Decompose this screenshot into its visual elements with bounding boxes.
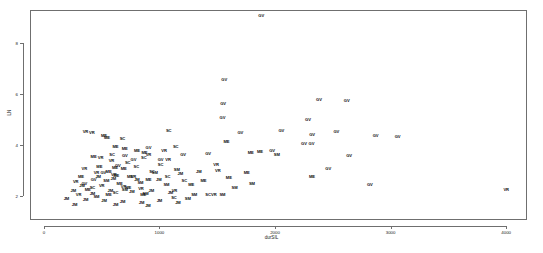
- y-tick: [20, 145, 23, 146]
- data-point-sc: SC: [205, 193, 211, 197]
- x-axis-label: durSIL: [0, 235, 543, 240]
- data-point-vr: VR: [165, 158, 171, 162]
- data-point-jm: JM: [64, 197, 70, 201]
- y-tick-label: 2: [8, 193, 18, 198]
- data-point-me: ME: [112, 166, 118, 170]
- data-point-gv: GV: [305, 118, 311, 122]
- data-point-sm: SM: [185, 197, 191, 201]
- data-point-me: ME: [122, 147, 128, 151]
- data-point-gv: GV: [344, 99, 350, 103]
- data-point-vr: VR: [161, 148, 167, 152]
- data-point-vr: VR: [83, 130, 89, 134]
- data-point-sm: SM: [103, 179, 109, 183]
- x-tick: [44, 226, 45, 229]
- data-point-gv: GV: [325, 167, 331, 171]
- data-point-sc: SC: [173, 145, 179, 149]
- data-point-jm: JM: [90, 192, 96, 196]
- data-point-vr: VR: [98, 156, 104, 160]
- data-point-jm: JM: [120, 200, 126, 204]
- data-point-sm: SM: [122, 188, 128, 192]
- data-point-jm: JM: [83, 198, 89, 202]
- data-point-gv: GV: [220, 102, 226, 106]
- data-point-me: ME: [121, 167, 127, 171]
- data-point-me: ME: [96, 165, 102, 169]
- data-point-gv: GV: [395, 135, 401, 139]
- y-tick: [20, 43, 23, 44]
- y-tick: [20, 94, 23, 95]
- data-point-me: ME: [257, 150, 263, 154]
- data-point-sc: SC: [182, 179, 188, 183]
- data-point-jm: JM: [72, 203, 78, 207]
- data-point-me: ME: [91, 155, 97, 159]
- data-point-jm: JM: [168, 191, 174, 195]
- data-point-gv: GV: [258, 14, 264, 18]
- data-point-vr: VR: [99, 184, 105, 188]
- data-point-gv: GV: [346, 154, 352, 158]
- y-tick-label: 6: [8, 92, 18, 97]
- data-point-gv: GV: [309, 133, 315, 137]
- data-point-gv: GV: [220, 116, 226, 120]
- data-point-me: ME: [248, 151, 254, 155]
- y-axis-line: [23, 43, 24, 196]
- y-axis-label: LN: [7, 98, 12, 128]
- y-tick-label: 4: [8, 142, 18, 147]
- data-point-gv: GV: [221, 78, 227, 82]
- data-point-jm: JM: [110, 177, 116, 181]
- data-point-gv: GV: [131, 158, 137, 162]
- data-point-sc: SC: [141, 156, 147, 160]
- data-point-jm: JM: [71, 189, 77, 193]
- data-point-sc: SC: [134, 165, 140, 169]
- x-tick: [391, 226, 392, 229]
- scatter-plot-figure: GVGVGVGVGVGVGVGVGVGVGVGVGVGVGVGVGVGVGVGV…: [0, 0, 543, 253]
- data-point-sc: SC: [166, 129, 172, 133]
- data-point-jm: JM: [145, 204, 151, 208]
- data-point-jm: JM: [101, 199, 107, 203]
- data-point-me: ME: [188, 183, 194, 187]
- data-point-sc: SC: [90, 186, 96, 190]
- data-point-sc: SC: [109, 153, 115, 157]
- data-point-sc: SC: [165, 175, 171, 179]
- data-point-jm: JM: [139, 201, 145, 205]
- data-point-sm: SM: [163, 183, 169, 187]
- data-point-me: ME: [226, 176, 232, 180]
- data-point-jm: JM: [149, 189, 155, 193]
- data-point-sm: SM: [219, 193, 225, 197]
- data-points-layer: GVGVGVGVGVGVGVGVGVGVGVGVGVGVGVGVGVGVGVGV…: [0, 0, 543, 253]
- data-point-sc: SC: [125, 161, 131, 165]
- data-point-gv: GV: [333, 130, 339, 134]
- data-point-sm: SM: [274, 153, 280, 157]
- data-point-gv: GV: [301, 142, 307, 146]
- data-point-sm: SM: [232, 186, 238, 190]
- data-point-jm: JM: [95, 175, 101, 179]
- data-point-sm: SM: [249, 182, 255, 186]
- data-point-vr: VR: [73, 180, 79, 184]
- y-tick: [20, 196, 23, 197]
- data-point-vr: VR: [503, 188, 509, 192]
- data-point-me: ME: [309, 175, 315, 179]
- x-tick: [159, 226, 160, 229]
- data-point-jm: JM: [196, 170, 202, 174]
- data-point-jm: JM: [175, 201, 181, 205]
- data-point-gv: GV: [122, 154, 128, 158]
- data-point-jm: JM: [129, 190, 135, 194]
- data-point-me: ME: [200, 179, 206, 183]
- data-point-vr: VR: [215, 169, 221, 173]
- data-point-vr: VR: [82, 167, 88, 171]
- data-point-jm: JM: [157, 199, 163, 203]
- data-point-sc: SC: [171, 196, 177, 200]
- data-point-me: ME: [104, 136, 110, 140]
- x-tick: [506, 226, 507, 229]
- data-point-vr: VR: [89, 131, 95, 135]
- data-point-sc: SC: [158, 163, 164, 167]
- data-point-vr: VR: [76, 193, 82, 197]
- y-tick-label: 8: [8, 41, 18, 46]
- data-point-gv: GV: [309, 142, 315, 146]
- data-point-me: ME: [145, 178, 151, 182]
- data-point-jm: JM: [113, 203, 119, 207]
- data-point-vr: VR: [213, 163, 219, 167]
- data-point-vr: VR: [109, 159, 115, 163]
- data-point-me: ME: [134, 148, 140, 152]
- data-point-me: ME: [224, 140, 230, 144]
- data-point-me: ME: [113, 145, 119, 149]
- data-point-jm: JM: [156, 178, 162, 182]
